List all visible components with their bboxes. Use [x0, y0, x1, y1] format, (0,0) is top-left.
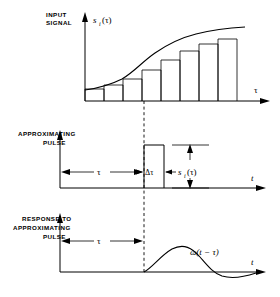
panel-input-signal: INPUT SIGNAL s i (τ) τ — [46, 11, 270, 104]
input-signal-curve — [85, 27, 245, 90]
tau-label-approximating-pulse: τ — [97, 167, 101, 177]
y-axis-label-input-signal: s — [93, 15, 97, 25]
x-axis-arrow-approximating-pulse — [256, 185, 266, 191]
y-axis-arrow-input-signal — [82, 12, 88, 22]
y-axis-label-arg-input-signal: (τ) — [102, 15, 112, 25]
tau-dimension-approximating-pulse: τ — [61, 165, 143, 178]
panel-label-approximating-pulse-line1: APPROXIMATING — [18, 130, 76, 137]
panel-label-approximating-pulse-line2: PULSE — [43, 139, 66, 146]
amplitude-label: s — [178, 167, 182, 177]
tau-label-response: τ — [97, 236, 101, 246]
pulse-rectangle — [144, 145, 164, 188]
panel-label-response-line1: RESPONSE TO — [22, 215, 72, 222]
amplitude-dimension: s i (τ) — [172, 144, 212, 189]
amplitude-label-arg: (τ) — [187, 167, 197, 177]
panel-label-response-line2: APPROXIMATING — [13, 224, 71, 231]
x-axis-label-input-signal: τ — [254, 85, 258, 95]
response-label: ω(t − τ) — [190, 247, 219, 257]
panel-label-input-signal-line2: SIGNAL — [46, 19, 72, 26]
diagram-canvas: INPUT SIGNAL s i (τ) τ APPROXIMATING PUL — [0, 0, 280, 297]
panel-label-response-line3: PULSE — [43, 233, 66, 240]
figure-container: INPUT SIGNAL s i (τ) τ APPROXIMATING PUL — [0, 0, 280, 297]
panel-response: RESPONSE TO APPROXIMATING PULSE t τ ω(t … — [13, 213, 266, 277]
panel-label-input-signal-line1: INPUT — [46, 11, 67, 18]
tau-dimension-response: τ — [61, 234, 143, 247]
panel-approximating-pulse: APPROXIMATING PULSE t τ Δτ — [18, 130, 266, 191]
x-axis-label-response: t — [251, 257, 254, 267]
y-axis-label-subscript-input-signal: i — [99, 21, 101, 27]
staircase-bars-input-signal — [85, 39, 237, 101]
x-axis-arrow-response — [256, 269, 266, 275]
x-axis-label-approximating-pulse: t — [251, 173, 254, 183]
delta-tau-label: Δτ — [145, 168, 154, 177]
x-axis-arrow-input-signal — [260, 98, 270, 104]
delta-tau-dimension: Δτ — [136, 168, 178, 177]
